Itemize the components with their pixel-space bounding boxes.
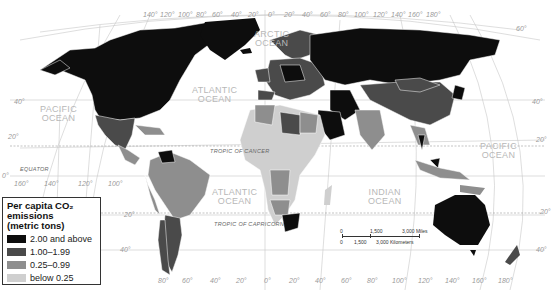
lon-top-40e: 40° [302,11,313,18]
pacific-ocean-north-label: PACIFIC OCEAN [40,105,77,123]
legend-label: 0.25–0.99 [30,260,70,270]
legend-label: 1.00–1.99 [30,247,70,257]
lon-bot-160e: 160° [472,277,486,284]
legend: Per capita CO₂ emissions (metric tons) 2… [2,197,101,285]
lon-top-160e: 160° [408,11,422,18]
lat-label-60n-right: 60° [516,25,527,32]
madagascar [324,185,332,205]
lon-bot-20e: 20° [289,277,300,284]
tropic-of-capricorn-label: TROPIC OF CAPRICORN [214,221,284,227]
scale-bar: 0 1,500 3,000 Miles 0 1,500 3,000 Kilome… [340,228,420,258]
lat-label-20n-left: 20° [8,133,19,140]
legend-item: 2.00 and above [7,234,96,244]
scale-line [342,236,420,237]
lon-top-0: 0° [268,11,275,18]
lon-top-20e: 20° [284,11,295,18]
new-zealand [505,245,520,265]
lon-bot-60e: 60° [341,277,352,284]
legend-item: below 0.25 [7,273,96,283]
lat-label-20s-right: 20° [540,208,551,215]
lon-top-140w: 140° [143,11,157,18]
lon-bot-80e: 80° [367,277,378,284]
lon-bot-140e: 140° [445,277,459,284]
legend-title: Per capita CO₂ emissions [7,201,96,221]
lon-top-180: 180° [426,11,440,18]
tropic-of-cancer-label: TROPIC OF CANCER [210,148,269,154]
tasmania [470,250,476,256]
lon-top-60e: 60° [320,11,331,18]
lon-mid-100w: 100° [108,180,122,187]
iceland [240,48,252,54]
lon-mid-140w: 140° [44,180,58,187]
legend-item: 0.25–0.99 [7,260,96,270]
north-america [40,22,215,165]
lat-label-20n-right: 20° [536,136,547,143]
lon-top-60w: 60° [212,11,223,18]
scale-tick [370,234,371,238]
lon-mid-160w: 160° [14,180,28,187]
legend-swatch [7,274,26,282]
pacific-ocean-east-label: PACIFIC OCEAN [480,142,517,160]
lon-top-140e: 140° [391,11,405,18]
lon-top-20w: 20° [248,11,259,18]
lon-bot-180: 180° [498,277,512,284]
lon-top-120w: 120° [160,11,174,18]
scale-km-end: 3,000 Kilometers [376,239,414,245]
new-guinea [460,185,485,195]
lat-label-40n-left: 40° [14,98,25,105]
legend-swatch [7,248,26,256]
lon-mid-120w: 120° [78,180,92,187]
scale-km-mid: 1,500 [354,239,367,245]
indian-ocean-label: INDIAN OCEAN [368,188,402,206]
scale-miles-end: 3,000 Miles [402,228,428,234]
lat-label-20s-left: 20° [124,211,135,218]
legend-item: 1.00–1.99 [7,247,96,257]
lon-bot-80w: 80° [158,277,169,284]
lon-top-80w: 80° [196,11,207,18]
legend-swatch [7,261,26,269]
lon-bot-40w: 40° [210,277,221,284]
scale-km-zero: 0 [340,239,343,245]
legend-label: 2.00 and above [30,234,92,244]
lon-bot-120e: 120° [418,277,432,284]
legend-swatch [7,235,26,243]
lon-top-80e: 80° [338,11,349,18]
lat-label-0-left: 0° [2,172,9,179]
lon-top-100w: 100° [178,11,192,18]
scale-tick [342,234,343,238]
lat-label-40s-right: 40° [536,246,547,253]
lon-bot-60w: 60° [182,277,193,284]
lat-label-40n-right: 40° [532,98,543,105]
lat-label-40s-left: 40° [120,246,131,253]
equator-label: EQUATOR [20,166,49,172]
legend-label: below 0.25 [30,273,74,283]
arctic-ocean-label: ARCTIC OCEAN [254,30,289,48]
lon-top-100e: 100° [354,11,368,18]
asia [310,28,500,180]
australia [433,195,490,245]
greenland [200,18,260,60]
lon-bot-100e: 100° [392,277,406,284]
lon-bot-40e: 40° [315,277,326,284]
legend-subtitle: (metric tons) [7,221,96,231]
lon-top-40w: 40° [231,11,242,18]
scale-tick [419,234,420,238]
south-america [145,150,210,275]
atlantic-ocean-south-label: ATLANTIC OCEAN [212,188,257,206]
scale-miles-mid: 1,500 [370,228,383,234]
atlantic-ocean-north-label: ATLANTIC OCEAN [192,86,237,104]
lon-top-120e: 120° [373,11,387,18]
lon-bot-0: 0° [264,277,271,284]
lon-bot-20w: 20° [236,277,247,284]
